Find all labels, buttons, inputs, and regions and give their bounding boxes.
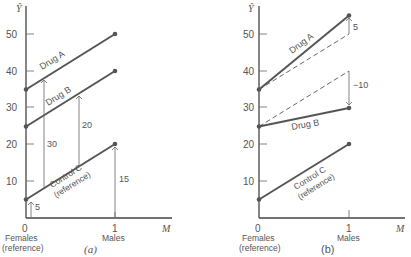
x-axis-label: M [161, 223, 171, 234]
y-ticks: 10 20 30 40 50 [243, 29, 267, 187]
y-tick-label: 50 [6, 29, 18, 40]
label-drug-a: Drug A [38, 49, 67, 72]
panel-b: Ŷ 10 20 30 40 50 0 1 M Females (referenc… [239, 3, 405, 255]
y-tick-label: 30 [6, 102, 18, 113]
figure: Ŷ 10 20 30 40 50 0 1 M Females (referenc… [0, 0, 411, 257]
y-ticks: 10 20 30 40 50 [6, 29, 34, 187]
reference-label: (reference) [239, 243, 281, 253]
y-tick-label: 10 [243, 176, 255, 187]
y-tick-label: 50 [243, 29, 255, 40]
reference-label: (reference) [2, 243, 44, 253]
females-label: Females [242, 233, 275, 243]
label-drug-a: Drug A [287, 31, 315, 56]
y-tick-label: 10 [6, 176, 18, 187]
annotation-20: 20 [82, 120, 92, 130]
y-tick-label: 40 [243, 66, 255, 77]
y-tick-label: 30 [243, 102, 255, 113]
males-label: Males [102, 233, 125, 243]
y-tick-label: 40 [6, 66, 18, 77]
y-axis-label: Ŷ [16, 3, 23, 14]
y-tick-label: 20 [243, 139, 255, 150]
label-drug-b: Drug B [44, 84, 73, 107]
y-axis-label: Ŷ [248, 3, 255, 14]
annotation-30: 30 [47, 139, 57, 149]
females-label: Females [5, 233, 38, 243]
males-label: Males [337, 233, 360, 243]
y-tick-label: 20 [6, 139, 18, 150]
annotation-15: 15 [119, 174, 129, 184]
annotation-5: 5 [35, 202, 40, 212]
annotation-neg10: −10 [353, 80, 368, 90]
panel-a: Ŷ 10 20 30 40 50 0 1 M Females (referenc… [2, 3, 172, 256]
x-axis-label: M [395, 223, 405, 234]
annotation-5: 5 [353, 22, 358, 32]
line-drug-b [26, 71, 115, 127]
panel-label: (b) [321, 243, 334, 255]
line-drug-a [259, 16, 349, 90]
panel-label: (a) [84, 243, 97, 256]
